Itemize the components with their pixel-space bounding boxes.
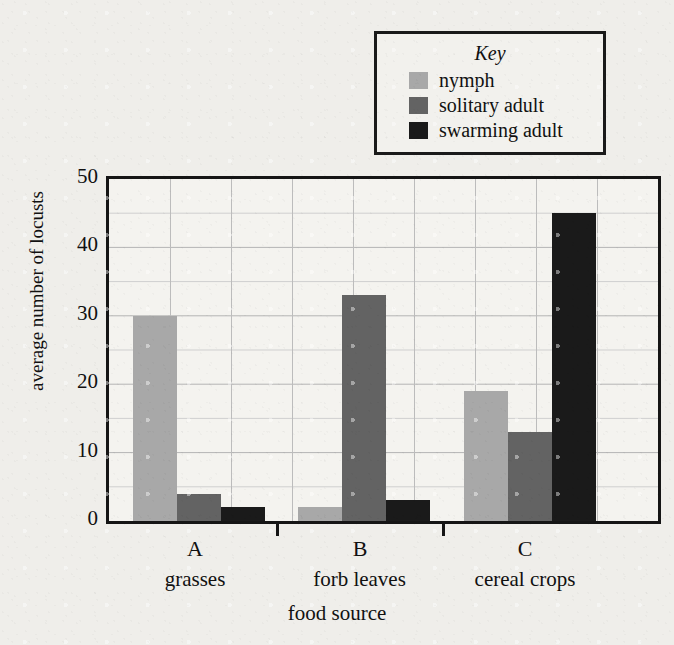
group-name-grasses: grasses — [125, 567, 265, 591]
y-tick-label-20: 20 — [54, 371, 98, 392]
legend-title: Key — [377, 41, 603, 65]
legend-item-solitary-adult: solitary adult — [377, 93, 603, 118]
y-tick-label-10: 10 — [54, 440, 98, 461]
x-axis-title: food source — [237, 601, 437, 625]
group-name-forb-leaves: forb leaves — [287, 567, 432, 591]
bar-b-nymph — [298, 507, 342, 521]
group-tick-a-b — [276, 521, 279, 536]
bar-b-swarming-adult — [386, 500, 430, 521]
legend-label-solitary-adult: solitary adult — [439, 95, 544, 116]
legend-item-swarming-adult: swarming adult — [377, 118, 603, 143]
legend-item-nymph: nymph — [377, 68, 603, 93]
bar-c-nymph — [464, 391, 508, 521]
legend-swatch-nymph — [409, 72, 428, 89]
bar-b-solitary-adult — [342, 295, 386, 521]
y-axis-title: average number of locusts — [26, 141, 48, 441]
legend-label-nymph: nymph — [439, 70, 495, 91]
bar-a-nymph — [133, 316, 177, 521]
group-letter-a: A — [125, 537, 265, 561]
group-letter-c: C — [455, 537, 595, 561]
legend-label-swarming-adult: swarming adult — [439, 120, 563, 141]
bars-layer — [109, 179, 658, 521]
y-tick-label-0: 0 — [54, 508, 98, 529]
y-tick-label-50: 50 — [54, 166, 98, 187]
legend-swatch-solitary-adult — [409, 97, 428, 114]
plot-area — [106, 176, 661, 524]
y-tick-label-40: 40 — [54, 234, 98, 255]
bar-a-solitary-adult — [177, 494, 221, 521]
group-tick-b-c — [442, 521, 445, 536]
legend: Key nymph solitary adult swarming adult — [374, 31, 606, 155]
y-axis-tick-labels: 50 40 30 20 10 0 — [50, 0, 98, 645]
group-letter-b: B — [290, 537, 430, 561]
bar-a-swarming-adult — [221, 507, 265, 521]
bar-c-swarming-adult — [552, 213, 596, 521]
y-tick-label-30: 30 — [54, 303, 98, 324]
group-name-cereal-crops: cereal crops — [450, 567, 600, 591]
bar-c-solitary-adult — [508, 432, 552, 521]
legend-swatch-swarming-adult — [409, 122, 428, 139]
